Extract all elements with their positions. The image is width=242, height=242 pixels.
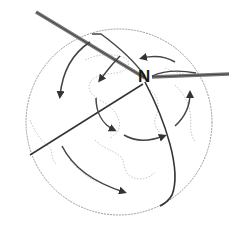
arrow-center xyxy=(96,98,114,130)
terminator-line xyxy=(30,84,143,155)
arrow-right xyxy=(175,93,190,126)
arrow-top-right xyxy=(142,56,175,62)
arrow-top-left xyxy=(60,42,90,96)
rotation-axis-core xyxy=(36,12,145,78)
globe-diagram xyxy=(0,0,242,242)
arrow-lower xyxy=(62,146,124,192)
coastlines xyxy=(30,55,196,182)
meridian-line xyxy=(145,82,175,206)
arrow-upper-center xyxy=(100,56,120,80)
arrow-center-right xyxy=(124,135,164,140)
north-pole-label: N xyxy=(138,68,150,85)
